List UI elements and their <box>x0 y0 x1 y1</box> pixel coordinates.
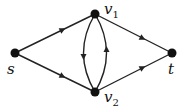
graph-canvas <box>0 0 186 110</box>
label-v1: v1 <box>104 2 119 20</box>
arrow-icon <box>81 54 87 60</box>
edge-v1-v2 <box>84 14 96 92</box>
arrow-icon <box>139 34 147 42</box>
edge-v2-v1 <box>95 14 107 92</box>
arrow-icon <box>59 72 67 80</box>
node-v2 <box>91 88 100 97</box>
flow-graph-diagram: s v1 v2 t <box>0 0 186 110</box>
arrow-icon <box>59 26 67 34</box>
label-t: t <box>168 62 174 77</box>
node-v1 <box>91 10 100 19</box>
label-v2: v2 <box>104 90 119 108</box>
arrow-icon <box>104 46 110 52</box>
label-s: s <box>7 62 15 77</box>
arrow-icon <box>139 64 147 72</box>
node-s <box>11 49 20 58</box>
node-t <box>168 49 177 58</box>
edge-s-v1 <box>15 14 95 53</box>
